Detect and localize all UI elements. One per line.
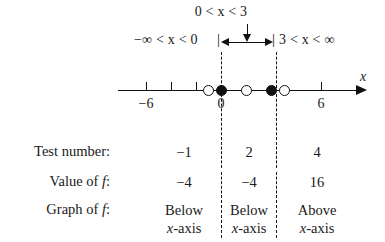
cell-graph-right: Above x-axis bbox=[282, 201, 352, 237]
cell-value-right: 16 bbox=[282, 173, 352, 191]
axis-tick-minus6 bbox=[146, 82, 147, 91]
row-label-test-number: Test number: bbox=[0, 143, 110, 160]
interval-label-middle: 0 < x < 3 bbox=[195, 4, 248, 20]
sign-analysis-diagram: 0 < x < 3 −∞ < x < 0 3 < x < ∞ | | x −6 … bbox=[0, 0, 385, 242]
cell-graph-left-line1: Below bbox=[149, 201, 219, 219]
axis-tick-6 bbox=[321, 82, 322, 91]
point-open-4 bbox=[279, 85, 290, 96]
point-open-2 bbox=[241, 85, 252, 96]
cell-graph-left: Below x-axis bbox=[149, 201, 219, 237]
cell-graph-middle-line1: Below bbox=[214, 201, 284, 219]
middle-down-arrow-head bbox=[243, 34, 251, 42]
cell-graph-left-line2: x-axis bbox=[149, 219, 219, 237]
middle-range-line bbox=[226, 42, 266, 43]
point-open-minus1 bbox=[203, 85, 214, 96]
cell-test-number-right: 4 bbox=[282, 143, 352, 161]
cell-value-middle: −4 bbox=[214, 173, 284, 191]
axis-tick-minus2 bbox=[196, 82, 197, 91]
interval-label-left: −∞ < x < 0 bbox=[134, 32, 198, 48]
axis-ticklabel-6: 6 bbox=[306, 96, 336, 112]
number-line-axis bbox=[118, 90, 358, 91]
interval-label-right: 3 < x < ∞ bbox=[279, 32, 335, 48]
boundary-dash-3-lower bbox=[276, 94, 277, 140]
separator-pipe-left: | bbox=[217, 32, 220, 47]
row-label-value-of-f: Value of f: bbox=[0, 173, 110, 190]
boundary-dash-0-upper bbox=[221, 52, 222, 88]
axis-arrowhead bbox=[356, 85, 367, 95]
cell-graph-middle-line2: x-axis bbox=[214, 219, 284, 237]
cell-test-number-left: −1 bbox=[149, 143, 219, 161]
cell-graph-right-line1: Above bbox=[282, 201, 352, 219]
boundary-dash-3-upper bbox=[276, 52, 277, 88]
axis-tick-minus4 bbox=[171, 82, 172, 91]
boundary-dash-0-lower bbox=[221, 94, 222, 140]
middle-range-arrow-left bbox=[221, 38, 229, 46]
middle-range-arrow-right bbox=[265, 38, 273, 46]
cell-test-number-middle: 2 bbox=[214, 143, 284, 161]
cell-value-left: −4 bbox=[149, 173, 219, 191]
axis-ticklabel-minus6: −6 bbox=[131, 96, 161, 112]
cell-graph-middle: Below x-axis bbox=[214, 201, 284, 237]
axis-variable-label: x bbox=[360, 69, 366, 85]
cell-graph-right-line2: x-axis bbox=[282, 219, 352, 237]
row-label-graph-of-f: Graph of f: bbox=[0, 201, 110, 218]
